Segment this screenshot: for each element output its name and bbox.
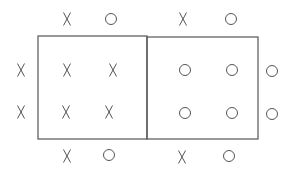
o-mark-icon [227,65,238,76]
o-mark-icon [267,66,278,77]
x-mark-icon [110,64,117,77]
o-mark-icon [224,151,235,162]
diagram-canvas [0,0,293,171]
x-mark-icon [18,106,25,119]
o-mark-icon [104,150,115,161]
x-mark-icon [64,64,71,77]
o-mark-icon [227,108,238,119]
boxes-group [38,36,258,139]
x-mark-icon [64,150,71,163]
o-mark-icon [106,14,117,25]
o-mark-icon [180,65,191,76]
x-mark-icon [179,151,186,164]
o-mark-icon [180,108,191,119]
x-mark-icon [180,13,187,26]
x-mark-icon [63,106,70,119]
right-box [147,37,258,139]
o-mark-icon [226,14,237,25]
left-box [38,36,147,139]
x-mark-icon [106,106,113,119]
x-mark-icon [64,13,71,26]
o-mark-icon [267,109,278,120]
x-mark-icon [18,64,25,77]
